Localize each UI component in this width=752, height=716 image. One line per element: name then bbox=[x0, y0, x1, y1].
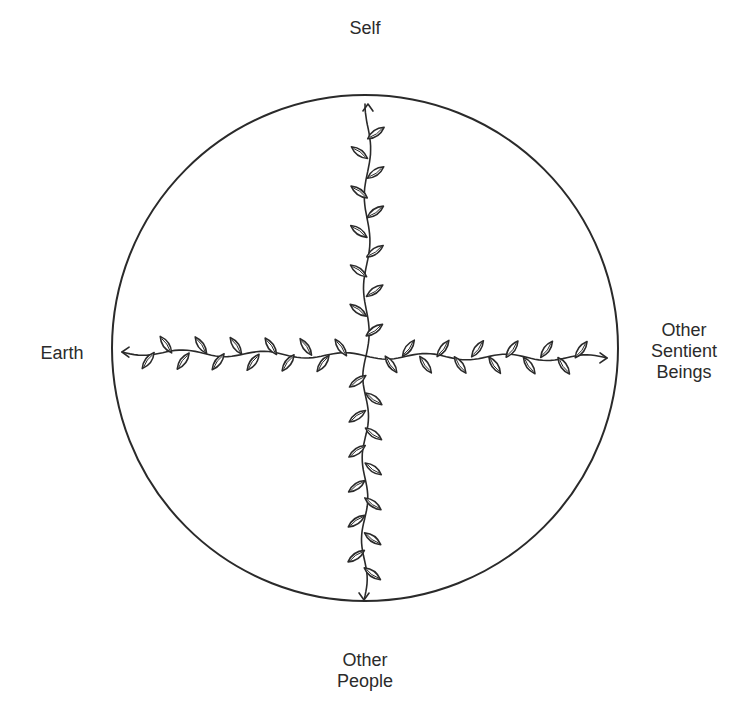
label-line: People bbox=[320, 671, 410, 692]
label-line: Sentient bbox=[636, 341, 732, 362]
label-line: Other bbox=[320, 650, 410, 671]
label-line: Beings bbox=[636, 362, 732, 383]
label-earth: Earth bbox=[28, 343, 96, 364]
vines bbox=[122, 104, 607, 600]
label-other-people: Other People bbox=[320, 650, 410, 692]
label-other-sentient-beings: Other Sentient Beings bbox=[636, 320, 732, 383]
label-line: Other bbox=[636, 320, 732, 341]
label-self: Self bbox=[335, 18, 395, 39]
boundary-circle bbox=[112, 95, 618, 601]
vine-to-self-stem bbox=[364, 104, 371, 356]
